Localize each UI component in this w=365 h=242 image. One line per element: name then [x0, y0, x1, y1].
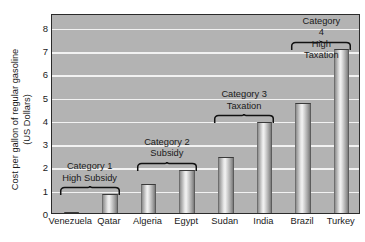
- bar: [257, 122, 272, 213]
- bar: [179, 170, 194, 213]
- y-tick-label: 8: [34, 22, 48, 33]
- y-tick-label: 6: [34, 69, 48, 80]
- category-bracket: [58, 186, 121, 195]
- y-tick-label: 0: [34, 209, 48, 220]
- category-label: Category 2 Subsidy: [144, 137, 189, 160]
- category-label: Category 1 High Subsidy: [62, 161, 117, 184]
- gridline: [52, 145, 359, 146]
- bar: [295, 103, 310, 213]
- x-tick-label: Venezuela: [49, 216, 92, 226]
- bar: [64, 212, 79, 213]
- category-bracket: [136, 162, 199, 171]
- y-tick-label: 5: [34, 92, 48, 103]
- bar: [334, 49, 349, 213]
- y-tick-label: 1: [34, 185, 48, 196]
- y-tick-label: 4: [34, 115, 48, 126]
- bar-chart-figure: Cost per gallon of regular gasoline (US …: [0, 0, 365, 242]
- bar: [141, 184, 156, 213]
- x-tick-label: Qatar: [97, 216, 120, 226]
- x-tick-label: Sudan: [211, 216, 238, 226]
- category-label: Category 3 Taxation: [221, 89, 266, 112]
- gridline: [52, 122, 359, 123]
- y-tick-label: 2: [34, 162, 48, 173]
- y-tick-label: 3: [34, 139, 48, 150]
- y-axis-tick-labels: 012345678: [33, 14, 48, 214]
- x-tick-label: Egypt: [174, 216, 198, 226]
- category-label: Category 4 High Taxation: [300, 16, 344, 61]
- x-axis-tick-labels: VenezuelaQatarAlgeriaEgyptSudanIndiaBraz…: [51, 216, 360, 232]
- x-tick-label: Brazil: [290, 216, 313, 226]
- x-tick-label: Algeria: [133, 216, 162, 226]
- category-bracket: [213, 114, 276, 123]
- y-axis-title: Cost per gallon of regular gasoline (US …: [10, 15, 33, 225]
- bar: [102, 194, 117, 213]
- gridline: [52, 75, 359, 76]
- y-tick-label: 7: [34, 46, 48, 57]
- gridline: [52, 99, 359, 100]
- x-tick-label: Turkey: [327, 216, 355, 226]
- bar: [218, 157, 233, 213]
- x-tick-label: India: [253, 216, 273, 226]
